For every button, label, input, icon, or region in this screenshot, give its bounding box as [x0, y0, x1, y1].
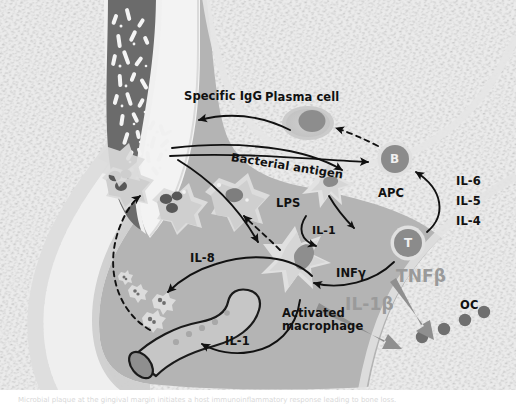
label-il-6: IL-6	[456, 176, 481, 188]
label-il-4: IL-4	[456, 216, 481, 228]
label-activated-macrophage-line2: macrophage	[282, 321, 363, 333]
label-t-cell: T	[404, 237, 412, 249]
label-il-8: IL-8	[190, 253, 215, 265]
figure-caption: Microbial plaque at the gingival margin …	[18, 396, 498, 405]
figure-stage: Specific IgG Plasma cell Bacterial antig…	[0, 0, 516, 410]
label-apc: APC	[378, 188, 404, 200]
label-il-1-vessel: IL-1	[225, 336, 250, 348]
diagram-artwork	[0, 0, 516, 390]
label-specific-igg: Specific IgG	[184, 91, 262, 103]
label-lps: LPS	[276, 198, 300, 210]
label-plasma-cell: Plasma cell	[265, 92, 339, 104]
label-b-cell: B	[390, 153, 399, 165]
label-il-1-apc: IL-1	[312, 225, 336, 236]
diagram-canvas: Specific IgG Plasma cell Bacterial antig…	[0, 0, 516, 390]
plasma-cell	[282, 106, 334, 140]
label-il-5: IL-5	[456, 196, 481, 208]
label-il-1-beta: IL-1β	[345, 296, 394, 313]
label-activated-macrophage-line1: Activated	[282, 308, 345, 320]
label-tnf-beta: TNFβ	[396, 268, 446, 285]
label-oc: OC	[460, 300, 478, 312]
label-inf-gamma: INFγ	[336, 268, 366, 280]
